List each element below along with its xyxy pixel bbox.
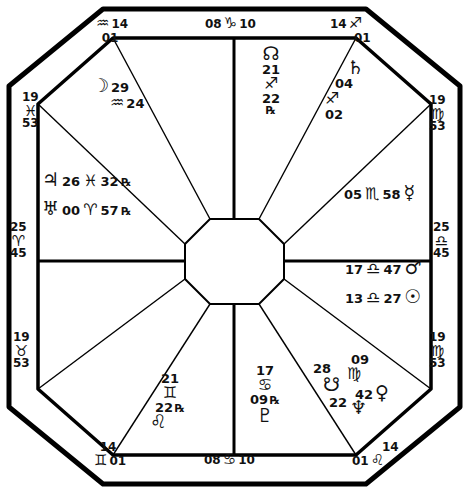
jupiter-retrograde-icon: ℞ — [122, 177, 132, 188]
moon-sign-icon: ♒ — [110, 95, 124, 111]
placement-mars: 17 ♎ 47 ♂ — [345, 258, 422, 277]
cusp-label-9: 14 ♐ 01 — [330, 16, 371, 45]
cusp-label-descendant: 25 ♎ 45 — [433, 222, 450, 260]
cusp-11-minute: 01 — [102, 31, 119, 45]
cusp-5-degree: 01 — [352, 455, 369, 467]
jupiter-degree: 26 — [62, 175, 80, 188]
house-spoke-8 — [284, 104, 431, 244]
placement-north-node: ☊ 21 ♐ 22 ℞ — [262, 44, 280, 116]
cusp-9-minute: 01 — [354, 31, 371, 45]
jupiter-sign-icon: ♓ — [83, 173, 97, 189]
saturn-icon: ♄ — [347, 56, 364, 78]
placement-mercury: 05 ♏ 58 ☿ — [344, 183, 415, 202]
sun-sign-icon: ♎ — [366, 290, 380, 306]
north-node-sign-icon: ♐ — [264, 76, 278, 92]
pluto-icon: ♇ — [256, 406, 273, 425]
mercury-sign-icon: ♏ — [365, 186, 379, 202]
mercury-minute: 58 — [382, 188, 400, 201]
venus-icon: ♀ — [375, 383, 389, 402]
placement-uranus: ♅ 00 ♈ 57 ℞ — [42, 199, 131, 218]
moon-degree: 29 — [111, 81, 129, 94]
moon-icon: ☽ — [92, 76, 109, 95]
cusp-11-degree: 14 — [111, 18, 128, 30]
gemini-icon: ♊ — [94, 453, 107, 468]
chiron-retrograde-icon: ℞ — [175, 403, 185, 414]
south-node-minute: 22 — [329, 395, 347, 410]
cusp-label-2: 19 ♉ 53 — [13, 332, 30, 370]
placement-leo-marker: ♌ — [150, 412, 167, 431]
placement-venus: 09 ♍ 42 ♀ — [347, 352, 389, 402]
cusp-label-5: 14 01 ♌ — [352, 440, 399, 469]
uranus-icon: ♅ — [42, 199, 59, 218]
cusp-label-ic: 08 ♋ 10 — [204, 452, 255, 467]
placement-pluto: 17 ♋ 09 ℞ ♇ — [250, 364, 280, 425]
uranus-degree: 00 — [62, 204, 80, 217]
jupiter-icon: ♃ — [42, 170, 59, 189]
cusp-3-minute: 01 — [109, 455, 126, 467]
chart-linework — [0, 0, 469, 493]
mercury-icon: ☿ — [404, 183, 416, 202]
cusp-mc-minute: 10 — [239, 18, 256, 30]
capricorn-icon: ♑ — [224, 16, 237, 31]
cusp-8-minute: 53 — [429, 121, 446, 133]
jupiter-minute: 32 — [100, 175, 118, 188]
mars-degree: 17 — [345, 263, 363, 276]
cusp-label-3: 14 ♊ 01 — [90, 440, 126, 469]
north-node-icon: ☊ — [263, 44, 280, 63]
mars-minute: 47 — [383, 263, 401, 276]
venus-sign-icon: ♍ — [347, 364, 361, 383]
leo-icon-interior: ♌ — [150, 410, 167, 432]
mars-icon: ♂ — [405, 258, 422, 277]
cusp-5-minute: 14 — [382, 440, 399, 454]
neptune-icon: ♆ — [350, 396, 367, 418]
placement-moon: ☽ 29 ♒ 24 — [92, 76, 144, 112]
cusp-label-12: 19 ♓ 53 — [22, 92, 39, 130]
cusp-6-minute: 53 — [429, 358, 446, 370]
south-node-icon: ☋ — [323, 375, 340, 394]
sun-degree: 13 — [345, 292, 363, 305]
cusp-mc-degree: 08 — [205, 18, 222, 30]
placement-saturn: ♄ 04 ♐ 02 — [325, 58, 364, 121]
placement-south-node: 28 ☋ 22 — [313, 362, 347, 409]
cusp-label-11: ♒ 14 01 — [96, 16, 128, 45]
cusp-9-degree: 14 — [330, 18, 347, 30]
cusp-label-8: 19 ♍ 53 — [429, 95, 446, 133]
placement-jupiter: ♃ 26 ♓ 32 ℞ — [42, 170, 131, 189]
north-node-retrograde-icon: ℞ — [266, 105, 276, 116]
cancer-icon: ♋ — [223, 452, 236, 467]
house-spoke-11 — [113, 38, 210, 219]
aquarius-icon: ♒ — [96, 16, 109, 31]
cusp-ic-minute: 10 — [238, 454, 255, 466]
uranus-minute: 57 — [100, 204, 118, 217]
pluto-sign-icon: ♋ — [258, 377, 272, 393]
cusp-12-minute: 53 — [22, 118, 39, 130]
saturn-minute: 02 — [325, 107, 343, 122]
cusp-asc-minute: 45 — [10, 248, 27, 260]
chiron-sign-icon: ♊ — [163, 385, 177, 401]
placement-neptune: ♆ — [350, 398, 367, 417]
uranus-retrograde-icon: ℞ — [122, 206, 132, 217]
cusp-dsc-minute: 45 — [433, 248, 450, 260]
sagittarius-icon: ♐ — [349, 16, 362, 31]
uranus-sign-icon: ♈ — [83, 202, 97, 218]
mercury-degree: 05 — [344, 188, 362, 201]
cusp-2-minute: 53 — [13, 358, 30, 370]
mars-sign-icon: ♎ — [366, 261, 380, 277]
sun-minute: 27 — [383, 292, 401, 305]
saturn-sign-icon: ♐ — [325, 91, 339, 107]
natal-chart-figure: ♒ 14 01 08 ♑ 10 14 ♐ 01 19 ♓ 53 25 ♈ 45 — [0, 0, 469, 493]
placement-chiron: 21 ♊ 22 ℞ — [155, 372, 185, 414]
cusp-label-mc: 08 ♑ 10 — [205, 16, 256, 31]
cusp-label-6: 19 ♍ 53 — [429, 332, 446, 370]
moon-minute: 24 — [126, 97, 144, 110]
cusp-ic-degree: 08 — [204, 454, 221, 466]
placement-sun: 13 ♎ 27 ☉ — [345, 287, 422, 306]
sun-icon: ☉ — [405, 287, 422, 306]
cusp-label-ascendant: 25 ♈ 45 — [10, 222, 27, 260]
center-octagon — [185, 219, 284, 304]
leo-icon-cusp: ♌ — [371, 453, 384, 468]
